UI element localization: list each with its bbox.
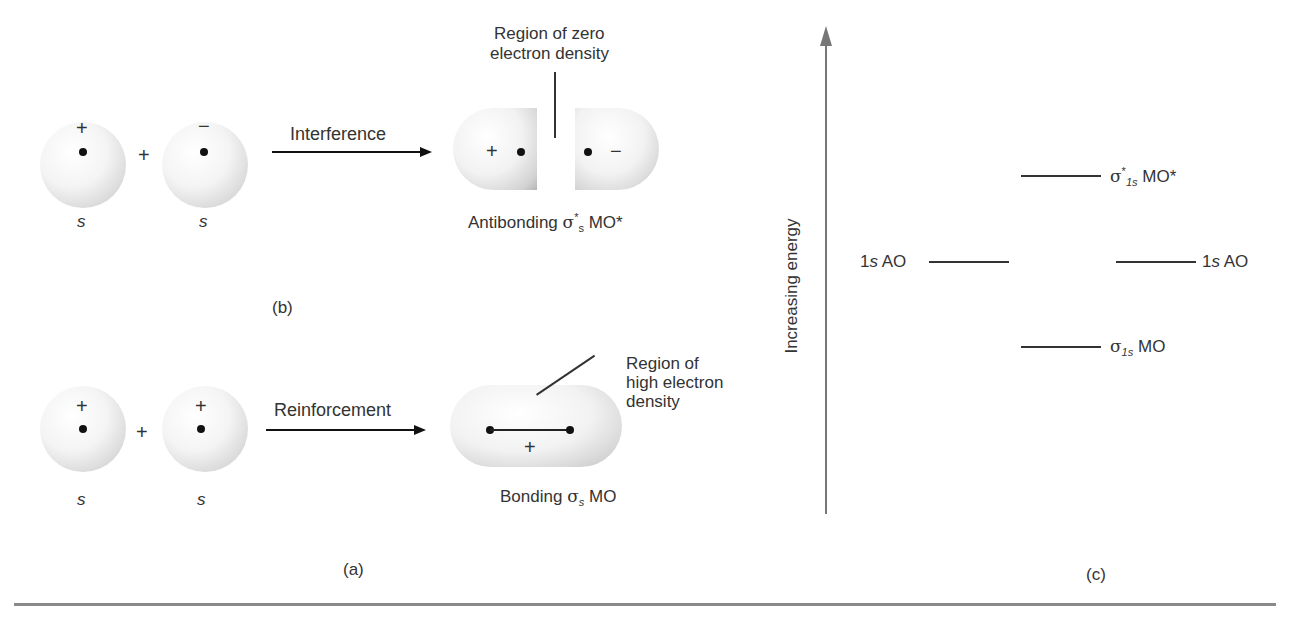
ao-right-level [1116,261,1196,263]
nucleus-dot [79,425,87,433]
nucleus-dot [79,148,87,156]
callout-line [554,72,556,138]
subscript: s [579,496,585,508]
phase-sign: − [198,116,210,136]
antibonding-level [1021,175,1101,177]
caption-text: Bonding [500,487,562,506]
bonding-orbital [450,385,622,467]
ao-left-level [929,261,1009,263]
orbital-label: s [199,212,208,232]
bonding-caption: Bonding σs MO [500,486,616,508]
arrowhead-icon [820,26,832,46]
subscript: 1s [1122,346,1134,358]
arrow-label-reinforcement: Reinforcement [274,400,391,421]
plus-operator: + [138,145,150,165]
panel-label-a: (a) [343,560,364,580]
ao-ital: s [1211,252,1220,271]
orbital-label: s [197,490,206,510]
caption-text: Antibonding [468,213,558,232]
callout-high-density-2: high electron [626,373,723,393]
callout-zero-density-2: electron density [490,44,609,64]
ao-suffix: AO [878,252,906,271]
energy-axis [825,44,827,514]
phase-sign: − [610,141,622,161]
nucleus-dot [517,148,525,156]
orbital-label: s [77,490,86,510]
reaction-arrow [266,429,416,431]
callout-high-density: Region of [626,354,699,374]
reaction-arrow [272,151,422,153]
sigma-symbol: σ [563,212,575,232]
phase-sign: + [486,141,498,161]
plus-operator: + [136,422,148,442]
callout-zero-density: Region of zero [494,24,605,44]
bonding-level [1021,346,1101,348]
phase-sign: + [76,396,88,416]
nucleus-dot [197,425,205,433]
nucleus-dot [584,148,592,156]
bonding-level-label: σ1s MO [1110,336,1165,358]
panel-label-b: (b) [272,298,293,318]
sigma-symbol: σ [567,486,579,506]
arrow-label-interference: Interference [290,124,386,145]
nucleus-dot [566,426,574,434]
antibonding-level-label: σ*1s MO* [1110,165,1176,188]
ao-right-label: 1s AO [1202,252,1248,272]
caption-suffix: MO* [589,213,623,232]
sigma-symbol: σ [1110,336,1122,356]
nucleus-dot [200,148,208,156]
energy-axis-label: Increasing energy [782,218,802,353]
ao-left-label: 1s AO [860,252,906,272]
subscript: s [578,222,584,234]
phase-sign: + [195,396,207,416]
panel-label-c: (c) [1086,565,1106,585]
ao-suffix: AO [1220,252,1248,271]
phase-sign: + [524,437,536,457]
arrowhead-icon [414,425,426,435]
callout-high-density-3: density [626,392,680,412]
bottom-rule-divider [14,603,1276,606]
orbital-label: s [77,212,86,232]
bond-axis-line [490,429,570,431]
arrowhead-icon [420,147,432,157]
sigma-symbol: σ [1110,166,1122,186]
subscript: 1s [1126,176,1138,188]
phase-sign: + [76,118,88,138]
level-suffix: MO* [1142,167,1176,186]
level-suffix: MO [1138,337,1165,356]
caption-suffix: MO [589,487,616,506]
antibonding-caption: Antibonding σ*s MO* [468,211,623,234]
ao-ital: s [869,252,878,271]
